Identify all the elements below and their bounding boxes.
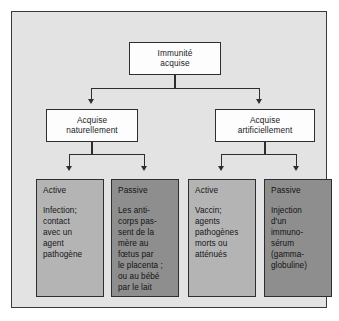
leaf-natural-active-title: Active <box>43 185 97 195</box>
diagram-panel: Immunité acquise Acquise naturellement A… <box>11 11 327 308</box>
node-branch-artificiellement: Acquise artificiellement <box>215 109 315 142</box>
leaf-artificial-active: Active Vaccin;agentspathogènesmorts ouat… <box>188 179 256 297</box>
node-branch-artificiellement-text: Acquise artificiellement <box>216 116 314 135</box>
node-root-line2: acquise <box>130 59 220 68</box>
leaf-artificial-active-title: Active <box>195 185 249 195</box>
connector-artificial-bar <box>221 154 297 155</box>
leaf-natural-passive: Passive Les anti-corps pas-sent de lamèr… <box>111 179 179 297</box>
arrowhead-artificial-to-active-icon <box>218 166 224 171</box>
connector-root-stem <box>174 75 175 89</box>
leaf-artificial-passive: Passive Injectiond'unimmuno-sérum(gamma-… <box>264 179 332 297</box>
node-branch-naturellement: Acquise naturellement <box>46 109 138 142</box>
leaf-artificial-passive-title: Passive <box>271 185 325 195</box>
leaf-natural-active: Active Infection;contactavec unagentpath… <box>36 179 104 297</box>
leaf-artificial-passive-body: Injectiond'unimmuno-sérum(gamma-globulin… <box>271 206 325 272</box>
leaf-artificial-active-body: Vaccin;agentspathogènesmorts ouatténués <box>195 206 249 261</box>
arrowhead-root-to-natural-icon <box>88 99 94 104</box>
leaf-natural-passive-title: Passive <box>118 185 172 195</box>
arrowhead-root-to-artificial-icon <box>256 99 262 104</box>
arrowhead-artificial-to-passive-icon <box>293 166 299 171</box>
arrowhead-natural-to-passive-icon <box>141 166 147 171</box>
diagram-page: Immunité acquise Acquise naturellement A… <box>0 0 339 321</box>
node-branch-naturellement-text: Acquise naturellement <box>47 116 137 135</box>
leaf-natural-passive-body: Les anti-corps pas-sent de lamère aufœtu… <box>118 206 172 294</box>
connector-natural-bar <box>69 154 145 155</box>
connector-root-bar <box>91 88 260 89</box>
node-branch-naturellement-line2: naturellement <box>47 126 137 135</box>
node-branch-artificiellement-line2: artificiellement <box>216 126 314 135</box>
leaf-natural-active-body: Infection;contactavec unagentpathogène <box>43 206 97 261</box>
node-root-immunite-acquise: Immunité acquise <box>129 42 221 75</box>
node-root-text: Immunité acquise <box>130 49 220 68</box>
arrowhead-natural-to-active-icon <box>66 166 72 171</box>
